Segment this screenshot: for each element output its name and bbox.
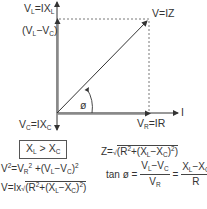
label-current: I	[181, 107, 184, 118]
fraction-voltage: VL−VC VR	[140, 161, 170, 188]
phi-arc-arrowhead	[85, 87, 90, 92]
label-vl: VL=IXL	[24, 3, 54, 16]
equation-impedance: Z=√(R2+(XL−XC)2)	[101, 146, 178, 159]
phi-arc	[87, 89, 92, 113]
equation-v-magnitude: V=Ix√(R2+(XL−XC)2)	[1, 182, 86, 195]
v-vector	[57, 21, 147, 113]
label-vr: VR=IR	[137, 118, 165, 131]
label-vl-minus-vc: (VL−VC)	[22, 25, 58, 38]
label-phi: ø	[80, 100, 86, 111]
label-vc: VC=IXC	[19, 119, 51, 132]
label-v: V=IZ	[152, 8, 175, 19]
equation-v-squared: V2=VR2 +(VL−VC)2	[1, 163, 79, 176]
fraction-reactance: XL−XC R	[181, 162, 207, 188]
condition-box: XL > XC	[19, 140, 67, 159]
equation-tan-phi: tan ø = VL−VC VR = XL−XC R	[106, 161, 207, 188]
vr-arrowhead	[145, 111, 151, 117]
